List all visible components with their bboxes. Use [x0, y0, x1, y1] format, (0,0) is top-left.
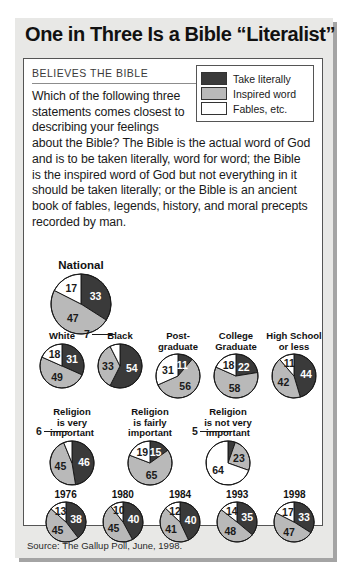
pie-cell-label: Religion is fairly important	[118, 407, 182, 439]
legend-swatch-inspired	[201, 87, 227, 100]
pie-cell: Religion is very important46456	[40, 407, 104, 490]
pie-cell-label: Black	[92, 331, 148, 342]
pie-cell: 1984404112	[152, 489, 207, 547]
pie-chart: 334717	[273, 501, 315, 543]
legend-item-inspired: Inspired word	[201, 87, 309, 100]
pie-row-race-education: White314918Black54337Post- graduate11563…	[24, 331, 322, 403]
pie-cell-label: Post- graduate	[150, 331, 206, 352]
pie-chart: 334717	[50, 273, 112, 335]
legend-label-fables: Fables, etc.	[233, 103, 287, 115]
legend-label-inspired: Inspired word	[233, 88, 296, 100]
pie-chart: 404112	[159, 501, 201, 543]
infographic-card: One in Three Is a Bible “Literalist” BEL…	[15, 18, 333, 558]
legend-swatch-fables	[201, 102, 227, 115]
pie-row-national: National334717	[24, 259, 322, 339]
pie-chart: 444211	[271, 353, 317, 399]
pie-cell-label: 1993	[210, 489, 265, 500]
pie-chart: 314918	[39, 343, 85, 389]
pie-cell: 1998334717	[267, 489, 322, 547]
pie-cell: White314918	[34, 331, 90, 393]
pie-leader-line	[200, 431, 232, 432]
pie-cell: 1993354814	[210, 489, 265, 547]
pie-cell: 1976384513	[38, 489, 93, 547]
pie-chart: 156519	[127, 440, 173, 486]
pie-chart: 384513	[45, 501, 87, 543]
pie-cell-label: 1976	[38, 489, 93, 500]
pie-cell-label: Religion is not very important	[196, 407, 260, 439]
legend-item-fables: Fables, etc.	[201, 102, 309, 115]
pie-cell: College Graduate225818	[208, 331, 264, 403]
pie-cell: Religion is fairly important156519	[118, 407, 182, 490]
pie-chart: 354814	[216, 501, 258, 543]
pie-row-trend-years: 1976384513198040451019844041121993354814…	[24, 489, 322, 547]
pie-leader-line	[92, 334, 115, 335]
pie-chart: 404510	[102, 501, 144, 543]
pie-chart: 115631	[155, 353, 201, 399]
pie-leader-line	[44, 431, 68, 432]
chart-panel: BELIEVES THE BIBLE Take literally Inspir…	[23, 58, 323, 526]
pie-cell: 1980404510	[95, 489, 150, 547]
legend-item-literal: Take literally	[201, 72, 309, 85]
pie-chart: 52364	[205, 440, 251, 486]
pie-cell: Religion is not very important52364	[196, 407, 260, 490]
pie-cell-label: High School or less	[266, 331, 322, 352]
legend-swatch-literal	[201, 72, 227, 85]
pie-chart: 54337	[97, 343, 143, 389]
pie-cell: High School or less444211	[266, 331, 322, 403]
pie-slice-literal	[72, 441, 94, 485]
pie-cell-label: 1980	[95, 489, 150, 500]
pie-cell-label: College Graduate	[208, 331, 264, 352]
pie-chart: 225818	[213, 353, 259, 399]
legend-label-literal: Take literally	[233, 73, 291, 85]
pie-cell-label: 1998	[267, 489, 322, 500]
pie-cell-label: National	[46, 259, 116, 272]
pie-row-religion-importance: Religion is very important46456Religion …	[24, 407, 322, 490]
pie-cell: Black54337	[92, 331, 148, 393]
pie-cell: Post- graduate115631	[150, 331, 206, 403]
pie-cell-label: 1984	[152, 489, 207, 500]
pie-cell-label: Religion is very important	[40, 407, 104, 439]
legend: Take literally Inspired word Fables, etc…	[196, 65, 314, 122]
pie-cell-label: White	[34, 331, 90, 342]
question-text-line-b: about the Bible? The Bible is the actual…	[32, 136, 312, 230]
pie-cell: National334717	[46, 259, 116, 339]
pie-chart: 46456	[49, 440, 95, 486]
page-title: One in Three Is a Bible “Literalist”	[15, 18, 333, 51]
source-note: Source: The Gallup Poll, June, 1998.	[27, 540, 182, 551]
